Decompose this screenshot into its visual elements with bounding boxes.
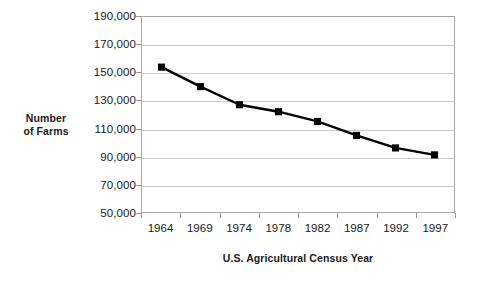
y-axis-tick-label: 110,000 — [60, 123, 136, 135]
x-axis-tick-mark — [455, 213, 456, 218]
data-point-marker — [353, 132, 360, 139]
x-axis-tick-mark — [180, 213, 181, 218]
data-point-marker — [197, 83, 204, 90]
y-axis-tick-label: 70,000 — [60, 179, 136, 191]
x-axis-tick-mark — [377, 213, 378, 218]
series-line — [162, 67, 435, 155]
data-series-svg — [142, 17, 454, 212]
x-axis-tick-label: 1997 — [407, 221, 463, 235]
x-axis-title: U.S. Agricultural Census Year — [141, 252, 455, 264]
y-axis-tick-labels: 190,000170,000150,000130,000110,00090,00… — [60, 16, 136, 213]
data-point-marker — [392, 144, 399, 151]
y-axis-tick-label: 170,000 — [60, 38, 136, 50]
y-axis-tick-label: 130,000 — [60, 94, 136, 106]
x-axis-tick-mark — [259, 213, 260, 218]
y-axis-tick-label: 190,000 — [60, 10, 136, 22]
y-axis-tick-label: 90,000 — [60, 151, 136, 163]
data-point-marker — [275, 108, 282, 115]
x-axis-tick-mark — [220, 213, 221, 218]
data-point-marker — [314, 118, 321, 125]
x-axis-tick-mark — [141, 213, 142, 218]
x-axis-tick-mark — [337, 213, 338, 218]
y-axis-tick-label: 150,000 — [60, 66, 136, 78]
x-axis-tick-labels: 19641969197419781982198719921997 — [141, 221, 455, 237]
y-axis-tick-label: 50,000 — [60, 207, 136, 219]
data-point-marker — [236, 101, 243, 108]
data-point-marker — [431, 151, 438, 158]
data-point-marker — [158, 64, 165, 71]
x-axis-tick-mark — [298, 213, 299, 218]
x-axis-tick-marks — [141, 213, 455, 219]
line-chart-figure: Number of Farms 190,000170,000150,000130… — [0, 0, 479, 281]
plot-area — [141, 16, 455, 213]
x-axis-tick-mark — [416, 213, 417, 218]
